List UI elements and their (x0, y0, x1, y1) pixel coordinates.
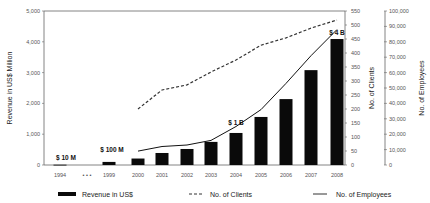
clients-tick-label: 500 (351, 22, 360, 28)
left-tick-label: 5,000 (26, 8, 40, 14)
data-annotation: $ 100 M (100, 146, 124, 154)
employees-tick-label: 100,000 (389, 8, 409, 14)
revenue-bar (103, 162, 116, 165)
x-tick-label: 1999 (103, 172, 115, 178)
employees-tick-label: 10,000 (389, 147, 406, 153)
left-tick-label: 4,000 (26, 39, 40, 45)
legend-revenue-label: Revenue in US$ (82, 191, 133, 198)
x-tick-label: 2001 (156, 172, 168, 178)
clients-tick-label: 50 (351, 148, 357, 154)
employees-tick-label: 0 (389, 162, 392, 168)
x-tick-label: 2006 (280, 172, 292, 178)
x-tick-label: 2007 (305, 172, 317, 178)
revenue-bar (205, 142, 218, 165)
data-annotation: $ 1 B (228, 119, 244, 127)
employees-tick-label: 20,000 (389, 131, 406, 137)
clients-tick-label: 250 (351, 92, 360, 98)
revenue-bar (305, 70, 318, 165)
clients-tick-label: 550 (351, 8, 360, 14)
x-tick-label: 2005 (255, 172, 267, 178)
x-tick-label: 2003 (205, 172, 217, 178)
x-tick-label: 2008 (331, 172, 343, 178)
x-tick-label: 1994 (54, 172, 66, 178)
revenue-bar (280, 99, 293, 165)
employees-axis-title: No. of Employees (418, 60, 426, 116)
clients-tick-label: 400 (351, 50, 360, 56)
employees-tick-label: 40,000 (389, 100, 406, 106)
left-tick-label: 1,000 (26, 131, 40, 137)
employees-tick-label: 90,000 (389, 23, 406, 29)
revenue-bar (255, 117, 268, 165)
legend-employees-label: No. of Employees (336, 191, 392, 199)
clients-tick-label: 350 (351, 64, 360, 70)
clients-tick-label: 300 (351, 78, 360, 84)
x-tick-label: 2000 (132, 172, 144, 178)
clients-tick-label: 100 (351, 134, 360, 140)
left-axis-title: Revenue in US$ Million (6, 52, 13, 125)
revenue-bar (156, 153, 169, 165)
left-tick-label: 2,000 (26, 100, 40, 106)
employees-tick-label: 70,000 (389, 54, 406, 60)
clients-tick-label: 450 (351, 36, 360, 42)
clients-tick-label: 0 (351, 162, 354, 168)
revenue-bar (230, 133, 243, 165)
employees-tick-label: 30,000 (389, 116, 406, 122)
employees-tick-label: 80,000 (389, 39, 406, 45)
left-tick-label: 0 (37, 162, 40, 168)
revenue-bar (181, 149, 194, 165)
data-annotation: $ 10 M (56, 154, 76, 162)
left-tick-label: 3,000 (26, 70, 40, 76)
revenue-clients-employees-chart: 01,0002,0003,0004,0005,00005010015020025… (0, 0, 430, 203)
revenue-bar (54, 165, 67, 166)
clients-axis-title: No. of Clients (368, 66, 375, 109)
employees-tick-label: 50,000 (389, 85, 406, 91)
x-tick-label: 2004 (230, 172, 242, 178)
x-tick-label: 2002 (181, 172, 193, 178)
data-annotation: $ 4 B (329, 29, 345, 37)
x-axis-break-marker: • • • (83, 172, 92, 178)
clients-tick-label: 200 (351, 106, 360, 112)
employees-tick-label: 60,000 (389, 70, 406, 76)
revenue-bar (331, 39, 344, 165)
legend-clients-label: No. of Clients (210, 191, 253, 198)
clients-tick-label: 150 (351, 120, 360, 126)
revenue-bar (132, 159, 145, 165)
legend-revenue-swatch (58, 192, 76, 196)
